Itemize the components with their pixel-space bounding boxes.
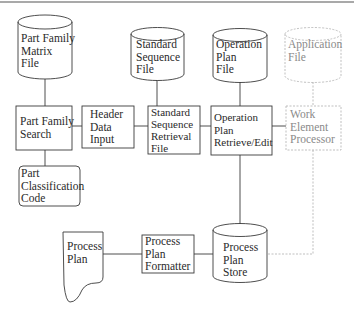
label-line: Plan: [216, 51, 262, 64]
edge-work-element-to-store: [267, 150, 313, 254]
label-line: File: [288, 51, 342, 64]
label-line: Part: [21, 167, 84, 180]
label-operation-plan-file: Operation Plan File: [216, 38, 262, 76]
label-line: Code: [21, 192, 84, 205]
label-line: Retrieve/Edit: [214, 136, 273, 149]
label-header-data-input: Header Data Input: [90, 108, 123, 146]
label-line: Part Family: [21, 32, 75, 45]
label-line: Processor: [290, 133, 335, 146]
label-line: Sequence: [136, 51, 180, 64]
label-line: Plan: [214, 124, 273, 137]
label-line: Standard: [136, 38, 180, 51]
label-line: Work: [290, 108, 335, 121]
label-line: Process: [223, 241, 258, 254]
label-application-file: Application File: [288, 38, 342, 63]
label-line: Standard: [151, 106, 193, 118]
label-line: Application: [288, 38, 342, 51]
label-work-element-processor: Work Element Processor: [290, 108, 335, 146]
label-line: Plan: [67, 253, 102, 266]
label-line: Input: [90, 133, 123, 146]
label-line: Operation: [216, 38, 262, 51]
label-line: Data: [90, 121, 123, 134]
label-line: Classification: [21, 180, 84, 193]
label-line: File: [136, 63, 180, 76]
label-line: Retrieval: [151, 130, 193, 142]
label-line: Store: [223, 266, 258, 279]
label-part-family-matrix-file: Part Family Matrix File: [21, 32, 75, 70]
label-operation-plan-retrieve-edit: Operation Plan Retrieve/Edit: [214, 111, 273, 149]
label-line: Part Family: [20, 115, 74, 128]
label-process-plan-store: Process Plan Store: [223, 241, 258, 279]
label-part-classification-code: Part Classification Code: [21, 167, 84, 205]
label-line: Sequence: [151, 118, 193, 130]
label-line: Process: [145, 235, 190, 248]
label-line: Plan: [223, 254, 258, 267]
label-part-family-search: Part Family Search: [20, 115, 74, 140]
label-line: File: [216, 63, 262, 76]
label-line: Process: [67, 240, 102, 253]
label-standard-sequence-file: Standard Sequence File: [136, 38, 180, 76]
label-process-plan: Process Plan: [67, 240, 102, 265]
label-line: Header: [90, 108, 123, 121]
label-standard-sequence-retrieval-file: Standard Sequence Retrieval File: [151, 106, 193, 154]
label-line: Matrix: [21, 45, 75, 58]
label-line: Search: [20, 128, 74, 141]
label-process-plan-formatter: Process Plan Formatter: [145, 235, 190, 273]
label-line: File: [151, 142, 193, 154]
label-line: Operation: [214, 111, 273, 124]
label-line: Plan: [145, 248, 190, 261]
label-line: File: [21, 57, 75, 70]
label-line: Element: [290, 121, 335, 134]
label-line: Formatter: [145, 260, 190, 273]
process-planning-diagram: Part Family Matrix File Standard Sequenc…: [0, 0, 354, 315]
